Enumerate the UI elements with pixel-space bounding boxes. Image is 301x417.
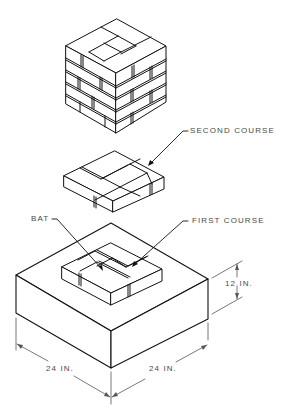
dimension-label-width-right: 24 IN. xyxy=(149,365,177,373)
drawing-canvas xyxy=(0,0,301,417)
dimension-label-width-left: 24 IN. xyxy=(46,365,74,373)
brick-pier-diagram: SECOND COURSE FIRST COURSE BAT 12 IN. 24… xyxy=(0,0,301,417)
stacked-brick-cube xyxy=(66,19,166,133)
dimension-label-height: 12 IN. xyxy=(225,280,253,288)
leader-second-course xyxy=(148,131,188,166)
second-course-slab xyxy=(64,151,164,212)
label-bat: BAT xyxy=(31,215,49,223)
label-first-course: FIRST COURSE xyxy=(192,217,265,225)
label-second-course: SECOND COURSE xyxy=(190,127,275,135)
